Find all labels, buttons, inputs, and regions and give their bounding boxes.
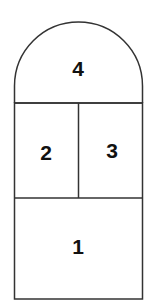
- region-2-label: 2: [40, 141, 52, 164]
- region-1-label: 1: [72, 235, 84, 258]
- region-4-label: 4: [72, 57, 84, 80]
- window-diagram: 4 2 3 1: [0, 0, 151, 302]
- region-3-label: 3: [106, 139, 118, 162]
